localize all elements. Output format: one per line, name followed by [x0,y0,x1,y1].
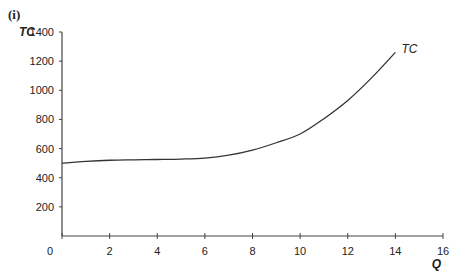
x-tick-label: 16 [437,245,449,257]
x-tick-label: 4 [154,245,160,257]
origin-label: 0 [47,245,53,257]
y-tick-label: 1200 [30,55,54,67]
x-tick-label: 2 [107,245,113,257]
y-tick-label: 400 [36,172,54,184]
y-axis-label: TC [19,25,35,39]
y-tick-label: 800 [36,113,54,125]
x-axis-label: Q [432,257,442,271]
y-tick-label: 200 [36,201,54,213]
x-tick-label: 12 [342,245,354,257]
axes: 2468101214160200400600800100012001400TCQ [19,25,449,271]
x-tick-label: 6 [202,245,208,257]
tc-chart: (i) 246810121416020040060080010001200140… [0,0,456,273]
x-tick-label: 8 [249,245,255,257]
y-tick-label: 600 [36,143,54,155]
series-label: TC [401,42,417,56]
x-tick-label: 10 [294,245,306,257]
panel-label: (i) [8,7,20,22]
x-tick-label: 14 [389,245,401,257]
y-tick-label: 1000 [30,84,54,96]
series-marks: TC [62,42,418,163]
series-line-tc [62,52,395,163]
